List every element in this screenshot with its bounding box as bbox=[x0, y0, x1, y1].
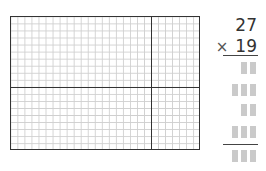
multiplicand: 27 bbox=[235, 17, 257, 34]
answer-box[interactable] bbox=[241, 104, 247, 116]
row-divider bbox=[11, 87, 199, 88]
sum-line bbox=[223, 144, 258, 145]
partial-product-3[interactable] bbox=[241, 104, 256, 116]
multiplier: 19 bbox=[235, 36, 257, 56]
column-divider bbox=[151, 17, 152, 149]
partial-product-1[interactable] bbox=[241, 62, 256, 74]
answer-box[interactable] bbox=[250, 150, 256, 162]
multiplier-line: ×19 bbox=[216, 38, 257, 55]
answer-box[interactable] bbox=[241, 150, 247, 162]
answer-box[interactable] bbox=[250, 62, 256, 74]
answer-box[interactable] bbox=[232, 84, 238, 96]
answer-box[interactable] bbox=[250, 84, 256, 96]
answer-box[interactable] bbox=[250, 104, 256, 116]
area-model-grid bbox=[10, 16, 200, 150]
partial-product-4[interactable] bbox=[232, 126, 256, 138]
partial-product-2[interactable] bbox=[232, 84, 256, 96]
answer-box[interactable] bbox=[250, 126, 256, 138]
answer-box[interactable] bbox=[232, 126, 238, 138]
times-sign: × bbox=[216, 38, 229, 56]
answer-box[interactable] bbox=[241, 84, 247, 96]
answer-box[interactable] bbox=[232, 150, 238, 162]
answer-box[interactable] bbox=[241, 126, 247, 138]
answer-box[interactable] bbox=[241, 62, 247, 74]
product-underline bbox=[223, 55, 258, 56]
total-product[interactable] bbox=[232, 150, 256, 162]
